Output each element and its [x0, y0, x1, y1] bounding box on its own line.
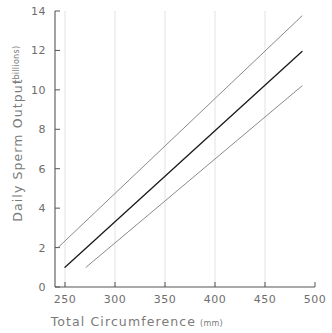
y-tick-label-2: 2	[39, 242, 47, 255]
x-axis-title: Total Circumference	[50, 314, 196, 329]
y-tick-label-14: 14	[31, 5, 46, 18]
line-chart: 250300350400450500 02468101214 Total Cir…	[0, 0, 332, 333]
y-axis-title: Daily Sperm Output	[10, 78, 25, 221]
x-tick-label-250: 250	[54, 293, 77, 306]
y-tick-label-10: 10	[31, 84, 46, 97]
chart-container: 250300350400450500 02468101214 Total Cir…	[0, 0, 332, 333]
y-tick-label-12: 12	[31, 44, 46, 57]
y-tick-label-4: 4	[39, 202, 47, 215]
x-tick-label-500: 500	[304, 293, 327, 306]
y-axis-title-unit: (billions)	[12, 46, 21, 83]
y-tick-label-6: 6	[39, 163, 47, 176]
x-tick-label-350: 350	[154, 293, 177, 306]
y-tick-label-0: 0	[39, 281, 47, 294]
x-tick-label-400: 400	[204, 293, 227, 306]
x-tick-label-300: 300	[104, 293, 127, 306]
x-tick-label-450: 450	[254, 293, 277, 306]
chart-background	[0, 0, 332, 333]
y-tick-label-8: 8	[39, 123, 47, 136]
x-axis-title-unit: (mm)	[200, 319, 223, 328]
